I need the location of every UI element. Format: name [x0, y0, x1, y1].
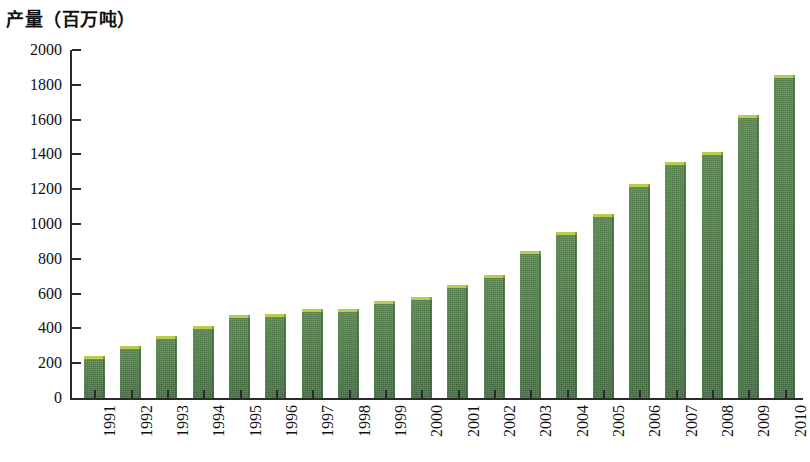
y-axis-tick-mark [72, 153, 81, 155]
x-axis-tick-label: 1998 [357, 405, 373, 437]
x-axis-tick-label: 1997 [320, 405, 336, 437]
bar [774, 75, 795, 398]
bar [156, 336, 177, 398]
x-axis-tick-mark [603, 390, 605, 399]
x-axis-tick-label: 2006 [647, 405, 663, 437]
y-axis-tick-mark [72, 223, 81, 225]
y-axis-tick-mark [72, 84, 81, 86]
x-axis-tick-label: 2008 [720, 405, 736, 437]
y-axis-tick-mark [72, 293, 81, 295]
bar-chart: 产量（百万吨） 02004006008001000120014001600180… [0, 0, 810, 462]
x-axis-tick-label: 1999 [393, 405, 409, 437]
x-axis-tick-mark [748, 390, 750, 399]
x-axis-tick-mark [676, 390, 678, 399]
y-axis-tick-mark [72, 327, 81, 329]
bar-texture [229, 318, 250, 398]
bar [193, 326, 214, 398]
y-axis-tick-mark [72, 258, 81, 260]
x-axis-tick-label: 2001 [466, 405, 482, 437]
bar-texture [265, 317, 286, 398]
x-axis-tick-label: 2000 [429, 405, 445, 437]
bar [702, 152, 723, 398]
x-axis-tick-mark [131, 390, 133, 399]
y-axis-tick-label: 1600 [30, 112, 62, 128]
bar-texture [302, 312, 323, 398]
x-axis-tick-mark [530, 390, 532, 399]
x-axis-tick-mark [276, 390, 278, 399]
x-axis-tick-mark [349, 390, 351, 399]
bar [374, 301, 395, 398]
bar-texture [484, 278, 505, 398]
y-axis-tick-label: 1200 [30, 181, 62, 197]
bar-texture [629, 187, 650, 398]
x-axis-tick-mark [785, 390, 787, 399]
bar [302, 309, 323, 398]
bar [593, 214, 614, 398]
y-axis-tick-mark [72, 119, 81, 121]
bar-texture [774, 78, 795, 398]
bar [738, 115, 759, 398]
x-axis-tick-mark [167, 390, 169, 399]
bar-texture [338, 312, 359, 398]
x-axis-tick-label: 2004 [575, 405, 591, 437]
y-axis-tick-label: 2000 [30, 42, 62, 58]
x-axis-tick-label: 2003 [538, 405, 554, 437]
bar-texture [411, 300, 432, 398]
bar-texture [520, 254, 541, 398]
x-axis-tick-label: 1995 [248, 405, 264, 437]
bar [665, 162, 686, 398]
bar [629, 184, 650, 398]
y-axis-tick-label: 1400 [30, 146, 62, 162]
y-axis-tick-label: 1800 [30, 77, 62, 93]
y-axis-tick-labels: 0200400600800100012001400160018002000 [0, 0, 62, 462]
bar-texture [738, 118, 759, 398]
x-axis-tick-label: 2002 [502, 405, 518, 437]
x-axis-tick-mark [240, 390, 242, 399]
x-axis-tick-mark [494, 390, 496, 399]
y-axis-tick-mark [72, 188, 81, 190]
bar-texture [193, 329, 214, 398]
x-axis-tick-label: 1992 [139, 405, 155, 437]
x-axis-tick-label: 2007 [684, 405, 700, 437]
bar [338, 309, 359, 398]
bar [265, 314, 286, 398]
x-axis-tick-mark [94, 390, 96, 399]
bar-texture [447, 288, 468, 398]
x-axis-tick-label: 2005 [611, 405, 627, 437]
bar-texture [702, 155, 723, 398]
bar [411, 297, 432, 398]
x-axis-tick-label: 1993 [175, 405, 191, 437]
x-axis-tick-mark [421, 390, 423, 399]
x-axis-tick-label: 1991 [102, 405, 118, 437]
bar [447, 285, 468, 398]
bar [556, 232, 577, 398]
x-axis-line [70, 398, 803, 400]
bar-texture [374, 304, 395, 398]
x-axis-tick-label: 1994 [211, 405, 227, 437]
bar [229, 315, 250, 398]
y-axis-tick-mark [72, 49, 81, 51]
bar [484, 275, 505, 398]
x-axis-tick-label: 1996 [284, 405, 300, 437]
y-axis-tick-label: 800 [38, 251, 62, 267]
bar-texture [665, 165, 686, 398]
y-axis-tick-label: 200 [38, 355, 62, 371]
x-axis-tick-mark [203, 390, 205, 399]
y-axis-tick-label: 0 [54, 390, 62, 406]
x-axis-tick-mark [639, 390, 641, 399]
x-axis-tick-label: 2010 [793, 405, 809, 437]
y-axis-tick-label: 1000 [30, 216, 62, 232]
y-axis-tick-label: 400 [38, 320, 62, 336]
y-axis-tick-mark [72, 362, 81, 364]
y-axis-tick-label: 600 [38, 286, 62, 302]
x-axis-tick-label: 2009 [756, 405, 772, 437]
x-axis-tick-mark [712, 390, 714, 399]
bar [520, 251, 541, 398]
x-axis-tick-mark [567, 390, 569, 399]
x-axis-tick-mark [312, 390, 314, 399]
x-axis-tick-mark [385, 390, 387, 399]
bar-texture [556, 235, 577, 398]
bar-texture [593, 217, 614, 398]
x-axis-tick-mark [458, 390, 460, 399]
